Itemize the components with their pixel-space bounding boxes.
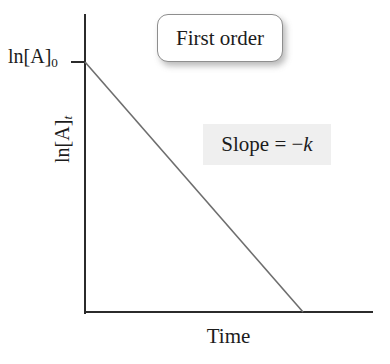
y-axis-intercept-label-base: ln[A] — [8, 45, 51, 67]
chart-title-label: First order — [176, 28, 264, 49]
y-axis-intercept-label-subscript: 0 — [51, 55, 58, 70]
chart-title-callout-box: First order — [157, 14, 283, 62]
first-order-data-line — [85, 62, 303, 312]
slope-annotation-box: Slope = −k — [203, 124, 331, 165]
y-axis-title-base: ln[A] — [51, 120, 73, 163]
x-axis-line — [84, 311, 373, 313]
y-axis-intercept-label: ln[A]0 — [8, 46, 58, 69]
first-order-kinetics-figure: ln[A]0 ln[A]t Time First order Slope = −… — [0, 0, 390, 364]
slope-annotation-prefix: Slope = − — [221, 132, 303, 156]
slope-annotation-label: Slope = −k — [221, 134, 312, 155]
y-axis-tick-mark — [71, 61, 86, 63]
y-axis-title-subscript: t — [60, 116, 75, 120]
y-axis-title: ln[A]t — [52, 104, 75, 174]
x-axis-title: Time — [84, 326, 373, 347]
y-axis-line — [84, 14, 86, 314]
slope-annotation-variable: k — [303, 132, 312, 156]
